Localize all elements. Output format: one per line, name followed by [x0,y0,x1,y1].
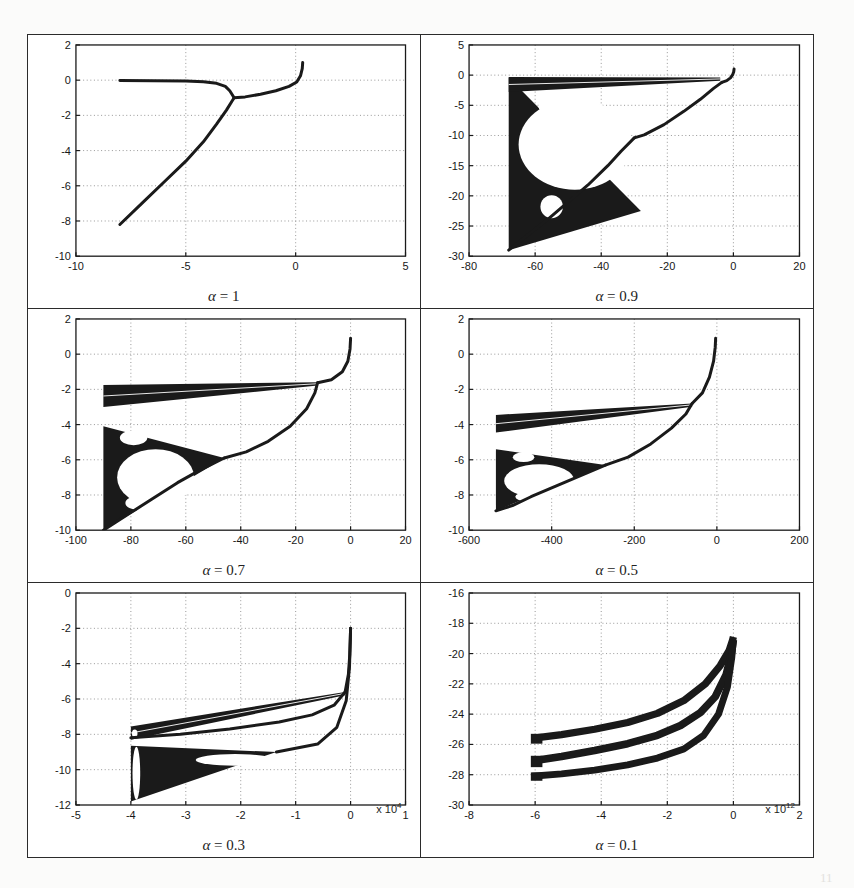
svg-text:-18: -18 [448,617,464,629]
svg-text:-40: -40 [233,534,249,546]
svg-text:-2: -2 [61,383,71,395]
svg-text:0: 0 [65,74,71,86]
alpha-value: 0.1 [619,837,638,853]
svg-text:20: 20 [399,534,411,546]
exponent-base: x 10 [765,803,786,815]
svg-text:0: 0 [348,809,354,821]
alpha-symbol: α [595,837,603,853]
svg-text:5: 5 [402,260,408,272]
svg-text:-2: -2 [662,809,672,821]
plot-area-6: -8-6-4-202-30-28-26-24-22-20-18-16 [421,583,814,857]
exponent-base: x 10 [376,803,397,815]
svg-text:-6: -6 [61,454,71,466]
figure-frame: -10-505-10-8-6-4-202 α = 1 -80-60-40-200… [27,34,814,858]
svg-text:-20: -20 [288,534,304,546]
alpha-value: 0.9 [619,288,638,304]
svg-text:-6: -6 [454,454,464,466]
svg-text:0: 0 [65,587,71,599]
svg-text:1: 1 [402,809,408,821]
svg-text:-25: -25 [448,220,464,232]
exponent-power: 12 [786,801,795,810]
svg-text:-15: -15 [448,160,464,172]
svg-text:-40: -40 [593,260,609,272]
svg-text:0: 0 [730,260,736,272]
alpha-symbol: α [595,288,603,304]
panel-alpha-0-9: -80-60-40-20020-30-25-20-15-10-505 α = 0… [421,35,814,309]
plot-area-5: -5-4-3-2-101-12-10-8-6-4-20 [28,583,420,857]
svg-text:-2: -2 [61,622,71,634]
exponent-power: 4 [397,801,401,810]
svg-text:-20: -20 [448,648,464,660]
panel-alpha-0-5: -600-400-2000200-10-8-6-4-202 α = 0.5 [421,309,814,583]
svg-text:0: 0 [457,69,463,81]
svg-text:2: 2 [796,809,802,821]
alpha-value: 1 [232,288,240,304]
plot-svg-3: -100-80-60-40-20020-10-8-6-4-202 [28,309,420,582]
svg-text:-10: -10 [55,764,71,776]
svg-text:-16: -16 [448,587,464,599]
alpha-value: 0.5 [619,562,638,578]
svg-text:-200: -200 [623,534,645,546]
svg-text:-30: -30 [448,799,464,811]
svg-text:-2: -2 [61,109,71,121]
svg-text:0: 0 [348,534,354,546]
svg-text:-20: -20 [659,260,675,272]
svg-text:20: 20 [793,260,805,272]
svg-text:-12: -12 [55,799,71,811]
panel-alpha-0-3: -5-4-3-2-101-12-10-8-6-4-20 x 104 α = 0.… [28,583,421,857]
svg-text:-400: -400 [540,534,562,546]
svg-text:-28: -28 [448,769,464,781]
svg-text:-10: -10 [448,524,464,536]
ghost-text: 11 [820,870,833,886]
panel-alpha-0-1: -8-6-4-202-30-28-26-24-22-20-18-16 x 101… [421,583,814,857]
svg-text:-2: -2 [454,383,464,395]
plot-svg-1: -10-505-10-8-6-4-202 [28,35,420,308]
svg-text:-1: -1 [291,809,301,821]
panel-alpha-1: -10-505-10-8-6-4-202 α = 1 [28,35,421,309]
svg-text:5: 5 [457,39,463,51]
plot-svg-4: -600-400-2000200-10-8-6-4-202 [421,309,814,582]
svg-text:-80: -80 [123,534,139,546]
plot-area-4: -600-400-2000200-10-8-6-4-202 [421,309,814,582]
alpha-symbol: α [208,288,216,304]
svg-text:-8: -8 [61,215,71,227]
svg-text:-4: -4 [126,809,136,821]
svg-text:-3: -3 [181,809,191,821]
plot-svg-6: -8-6-4-202-30-28-26-24-22-20-18-16 [421,583,814,857]
svg-text:0: 0 [65,348,71,360]
svg-text:-4: -4 [61,145,71,157]
alpha-value: 0.3 [226,837,245,853]
svg-text:2: 2 [65,39,71,51]
svg-text:-5: -5 [71,809,81,821]
svg-text:2: 2 [457,313,463,325]
panel-caption-1: α = 1 [28,288,420,305]
svg-text:-8: -8 [61,489,71,501]
x-axis-exponent-5: x 104 [376,801,401,815]
svg-text:0: 0 [293,260,299,272]
svg-text:-2: -2 [236,809,246,821]
svg-text:-8: -8 [61,728,71,740]
svg-text:0: 0 [457,348,463,360]
panel-caption-4: α = 0.5 [421,562,814,579]
svg-text:-4: -4 [61,658,71,670]
svg-text:-30: -30 [448,250,464,262]
svg-text:-60: -60 [527,260,543,272]
svg-text:2: 2 [65,313,71,325]
svg-text:-5: -5 [454,99,464,111]
svg-text:-6: -6 [61,693,71,705]
alpha-symbol: α [202,562,210,578]
alpha-symbol: α [595,562,603,578]
svg-text:0: 0 [713,534,719,546]
alpha-value: 0.7 [226,562,245,578]
svg-text:-10: -10 [55,524,71,536]
svg-text:-20: -20 [448,190,464,202]
panel-caption-2: α = 0.9 [421,288,814,305]
svg-text:200: 200 [790,534,808,546]
plot-area-1: -10-505-10-8-6-4-202 [28,35,420,308]
alpha-symbol: α [202,837,210,853]
panel-caption-5: α = 0.3 [28,837,420,854]
svg-text:-8: -8 [464,809,474,821]
plot-svg-5: -5-4-3-2-101-12-10-8-6-4-20 [28,583,420,857]
svg-text:-60: -60 [178,534,194,546]
svg-text:-5: -5 [181,260,191,272]
